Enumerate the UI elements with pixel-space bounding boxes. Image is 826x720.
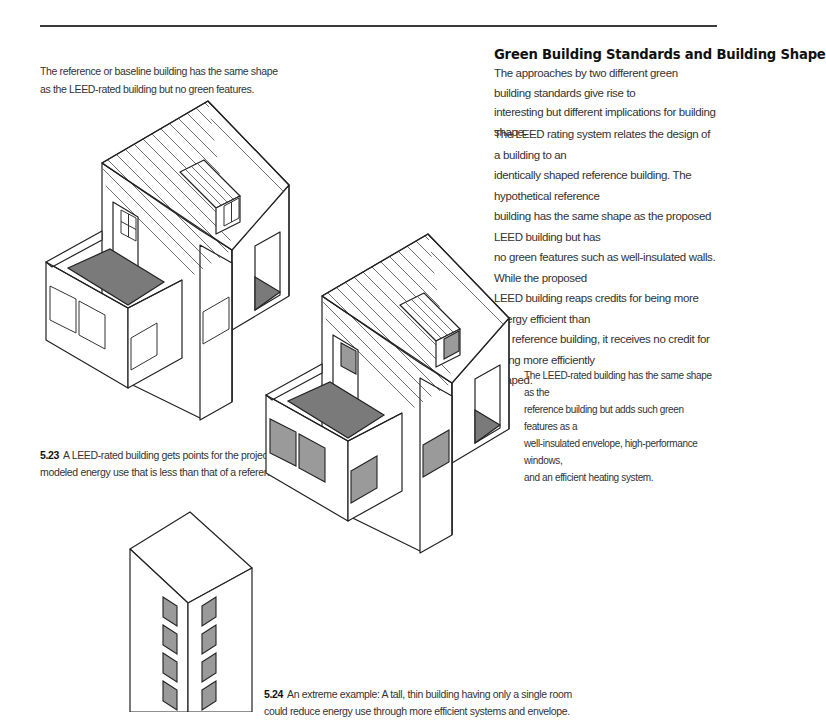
tall-building-drawing — [130, 512, 252, 712]
reference-building-drawing — [46, 65, 325, 420]
leed-building-drawing — [266, 198, 545, 553]
